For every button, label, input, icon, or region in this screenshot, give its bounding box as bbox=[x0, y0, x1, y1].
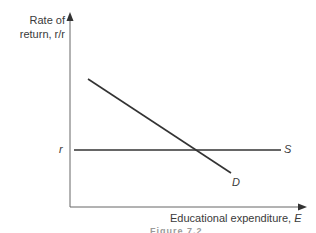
r-tick-label: r bbox=[59, 143, 63, 156]
figure-caption: Figure 7.2 bbox=[150, 226, 203, 233]
y-axis-label-line1: Rate of bbox=[23, 14, 65, 27]
demand-curve-label: D bbox=[232, 176, 240, 189]
demand-curve-d bbox=[88, 79, 231, 173]
x-axis-arrow-icon bbox=[298, 204, 307, 211]
y-axis-arrow-icon bbox=[67, 12, 74, 21]
x-axis-label-text: Educational expenditure, bbox=[170, 212, 291, 224]
x-axis-symbol: E bbox=[294, 212, 301, 224]
y-axis-label-line2: return, r/r bbox=[13, 28, 65, 41]
x-axis-label: Educational expenditure, E bbox=[170, 212, 302, 225]
supply-curve-label: S bbox=[284, 143, 291, 156]
